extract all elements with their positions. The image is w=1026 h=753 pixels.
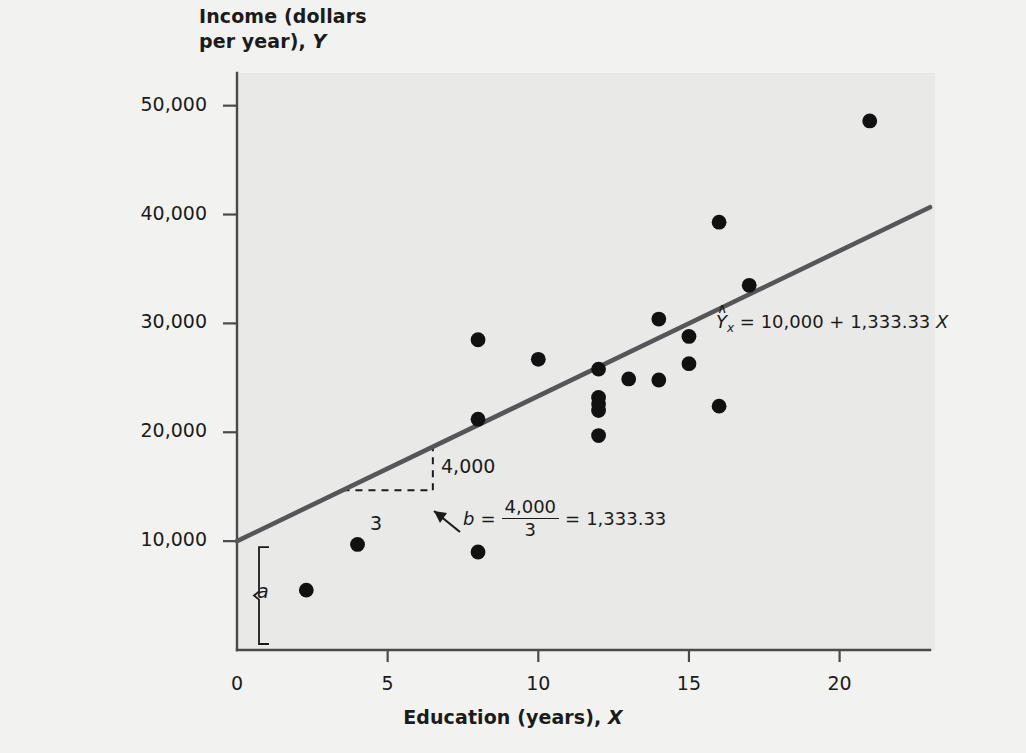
x-tick-label: 5: [358, 672, 418, 694]
y-tick-label: 10,000: [77, 528, 207, 550]
x-axis-title-text: Education (years),: [403, 706, 608, 728]
plot-background: [237, 73, 935, 650]
slope-equals-1: =: [480, 508, 495, 529]
data-point: [651, 312, 666, 327]
data-point: [742, 278, 757, 293]
y-axis-title: Income (dollars per year), Y: [199, 4, 367, 54]
y-tick-label: 50,000: [77, 93, 207, 115]
hat-symbol: ∧: [717, 300, 727, 316]
slope-value: 1,333.33: [586, 508, 666, 529]
intercept-label: a: [257, 580, 269, 602]
data-point: [651, 373, 666, 388]
regression-equation: ∧Yx = 10,000 + 1,333.33 X: [716, 311, 948, 335]
y-tick-label: 20,000: [77, 419, 207, 441]
x-axis-title-variable: X: [608, 706, 623, 728]
data-point: [299, 583, 314, 598]
data-point: [712, 399, 727, 414]
data-point: [682, 329, 697, 344]
scatter-plot-figure: Income (dollars per year), Y Education (…: [0, 0, 1026, 753]
equation-x-variable: X: [936, 311, 948, 332]
x-axis-title: Education (years), X: [0, 706, 1026, 728]
y-axis-title-line2: per year),: [199, 30, 313, 52]
y-tick-label: 30,000: [77, 310, 207, 332]
slope-fraction: 4,000 3: [502, 497, 560, 540]
data-point: [471, 545, 486, 560]
rise-label: 4,000: [441, 455, 495, 477]
data-point: [591, 362, 606, 377]
data-point: [591, 428, 606, 443]
slope-denominator: 3: [522, 520, 539, 540]
data-point: [471, 332, 486, 347]
data-point: [712, 215, 727, 230]
data-point: [682, 356, 697, 371]
slope-symbol: b: [463, 508, 474, 529]
x-tick-label: 20: [810, 672, 870, 694]
data-point: [531, 352, 546, 367]
run-label: 3: [370, 512, 382, 534]
data-point: [591, 390, 606, 405]
equation-body: = 10,000 + 1,333.33: [734, 311, 936, 332]
data-point: [862, 114, 877, 129]
x-axis-tick-marks: [388, 650, 840, 662]
equation-y-hat: ∧Y: [716, 311, 727, 332]
slope-equals-2: =: [565, 508, 580, 529]
slope-numerator: 4,000: [502, 497, 560, 517]
slope-formula: b = 4,000 3 = 1,333.33: [463, 497, 666, 540]
x-tick-label: 0: [207, 672, 267, 694]
data-point: [621, 372, 636, 387]
x-tick-label: 10: [508, 672, 568, 694]
y-tick-label: 40,000: [77, 202, 207, 224]
y-axis-title-variable: Y: [313, 30, 327, 52]
y-axis-title-line1: Income (dollars: [199, 5, 367, 27]
data-point: [350, 537, 365, 552]
x-tick-label: 15: [659, 672, 719, 694]
y-axis-tick-marks: [223, 106, 237, 541]
data-point: [471, 412, 486, 427]
